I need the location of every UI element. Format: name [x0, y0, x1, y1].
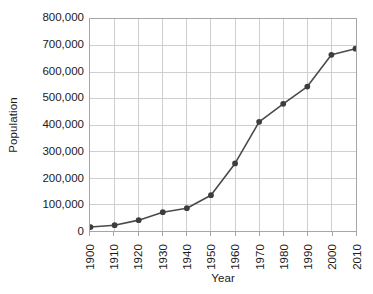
x-axis-tick-mark: [332, 232, 333, 236]
x-axis-tick-labels: 1900191019201930194019501960197019801990…: [0, 0, 373, 294]
x-axis-tick-label-text: 1930: [156, 244, 168, 270]
x-axis-tick-label-text: 1940: [181, 244, 193, 270]
x-axis-tick-label-text: 1990: [302, 244, 314, 270]
x-axis-tick-mark: [283, 232, 284, 236]
x-axis-tick-mark: [210, 232, 211, 236]
x-axis-tick-label-text: 2000: [326, 244, 338, 270]
x-axis-tick-mark: [356, 232, 357, 236]
population-line-chart: Population 0100,000200,000300,000400,000…: [0, 0, 373, 294]
x-axis-tick-mark: [113, 232, 114, 236]
x-axis-tick-mark: [138, 232, 139, 236]
x-axis-tick-mark: [162, 232, 163, 236]
x-axis-tick-mark: [89, 232, 90, 236]
x-axis-tick-mark: [259, 232, 260, 236]
x-axis-tick-label-text: 1970: [253, 244, 265, 270]
x-axis-tick-label-text: 1980: [278, 244, 290, 270]
x-axis-tick-mark: [186, 232, 187, 236]
x-axis-tick-label-text: 1900: [84, 244, 96, 270]
x-axis-tick-label-text: 1950: [205, 244, 217, 270]
x-axis-tick-label-text: 2010: [351, 244, 363, 270]
x-axis-title: Year: [89, 272, 357, 284]
x-axis-tick-label-text: 1910: [108, 244, 120, 270]
x-axis-tick-label-text: 1920: [132, 244, 144, 270]
x-axis-tick-mark: [235, 232, 236, 236]
x-axis-tick-label-text: 1960: [229, 244, 241, 270]
x-axis-tick-mark: [307, 232, 308, 236]
